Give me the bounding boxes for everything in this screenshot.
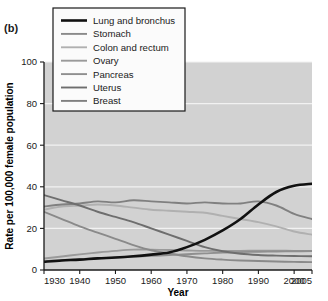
x-tick-label-1990: 1990 bbox=[248, 275, 269, 286]
legend-label-stomach: Stomach bbox=[93, 28, 131, 39]
x-tick-label-1950: 1950 bbox=[105, 275, 126, 286]
x-tick-label-1980: 1980 bbox=[212, 275, 233, 286]
x-tick-label-1930: 1930 bbox=[44, 275, 65, 286]
legend-label-lung-and-bronchus: Lung and bronchus bbox=[93, 15, 175, 26]
y-tick-label-40: 40 bbox=[26, 181, 37, 192]
x-tick-label-2005: 2005 bbox=[291, 275, 312, 286]
y-tick-label-0: 0 bbox=[32, 264, 37, 275]
x-axis-title: Year bbox=[167, 287, 188, 298]
y-tick-label-100: 100 bbox=[21, 56, 37, 67]
y-tick-label-60: 60 bbox=[26, 140, 37, 151]
figure-container: (b) 020406080100 19301940195019601970198… bbox=[0, 0, 328, 301]
y-tick-label-20: 20 bbox=[26, 223, 37, 234]
legend-label-ovary: Ovary bbox=[93, 55, 119, 66]
panel-label: (b) bbox=[4, 22, 18, 34]
legend-label-breast: Breast bbox=[93, 95, 121, 106]
x-tick-label-1960: 1960 bbox=[141, 275, 162, 286]
y-axis-title: Rate per 100,000 female population bbox=[4, 82, 15, 249]
legend-label-pancreas: Pancreas bbox=[93, 69, 134, 80]
y-tick-label-80: 80 bbox=[26, 98, 37, 109]
legend-label-uterus: Uterus bbox=[93, 82, 121, 93]
cancer-death-rate-line-chart: (b) 020406080100 19301940195019601970198… bbox=[0, 0, 328, 301]
x-tick-label-1940: 1940 bbox=[69, 275, 90, 286]
legend-label-colon-and-rectum: Colon and rectum bbox=[93, 42, 169, 53]
x-tick-label-1970: 1970 bbox=[176, 275, 197, 286]
